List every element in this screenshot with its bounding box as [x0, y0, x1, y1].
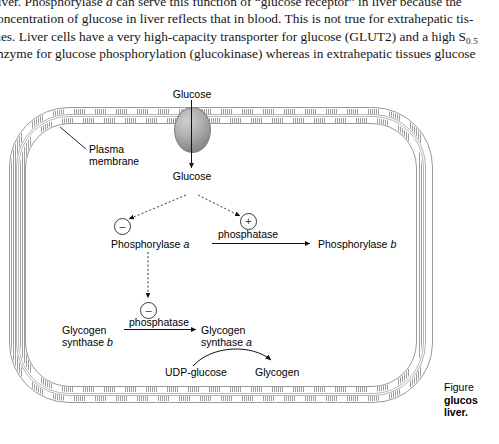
- label-plasma-membrane-line2: membrane: [89, 155, 139, 167]
- label-plasma-membrane-line1: Plasma: [89, 143, 124, 155]
- udp-glucose-to-glycogen-arrow: [193, 349, 271, 366]
- plasma-membrane-leader-line: [60, 127, 86, 149]
- figure-caption-line-3: liver.: [444, 406, 499, 419]
- label-phosphorylase-b: Phosphorylase b: [318, 238, 396, 250]
- figure-caption-line-1: Figure: [444, 381, 499, 394]
- plus-sign-phosphorylase: +: [240, 213, 257, 230]
- minus-sign-glycogen-synthase: –: [140, 302, 157, 319]
- label-glycogen-synthase-a-line2: synthase a: [201, 336, 252, 348]
- label-glucose-intracellular: Glucose: [167, 170, 217, 182]
- glucose-to-phosphorylase-minus-arrow: [129, 195, 186, 219]
- label-glycogen-synthase-b-line2: synthase b: [62, 336, 113, 348]
- label-udp-glucose: UDP-glucose: [165, 366, 227, 378]
- label-phosphatase-synthase: phosphatase: [129, 316, 189, 328]
- figure-caption-line-2: glucos: [444, 394, 499, 407]
- label-glycogen-synthase-b-line1: Glycogen: [62, 324, 106, 336]
- glucose-to-phosphorylase-plus-arrow: [198, 195, 240, 216]
- figure-caption: Figure glucos liver.: [444, 381, 499, 419]
- label-glucose-extracellular: Glucose: [167, 88, 217, 100]
- minus-sign-phosphorylase-a: –: [114, 218, 131, 235]
- label-phosphorylase-a: Phosphorylase a: [111, 238, 189, 250]
- label-glycogen: Glycogen: [255, 366, 299, 378]
- label-glycogen-synthase-a-line1: Glycogen: [201, 324, 245, 336]
